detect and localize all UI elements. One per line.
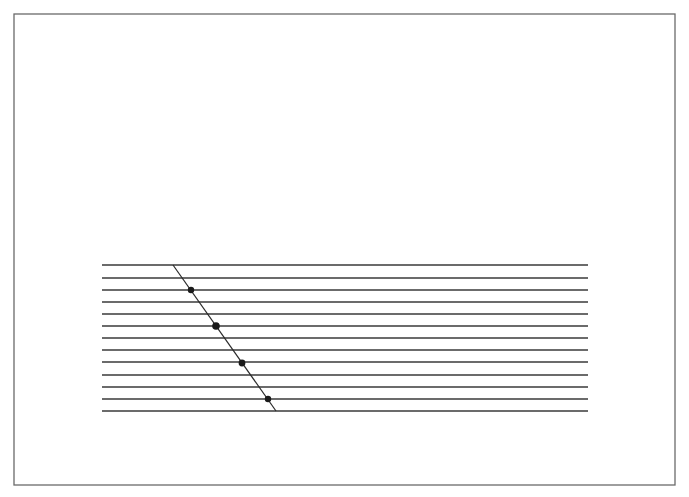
point-marker-4 bbox=[265, 396, 271, 402]
parallel-lines bbox=[102, 265, 588, 411]
point-marker-2 bbox=[212, 322, 220, 330]
point-marker-1 bbox=[188, 287, 194, 293]
diagram-canvas bbox=[0, 0, 689, 497]
figure-frame bbox=[14, 14, 675, 485]
point-marker-3 bbox=[239, 360, 246, 367]
